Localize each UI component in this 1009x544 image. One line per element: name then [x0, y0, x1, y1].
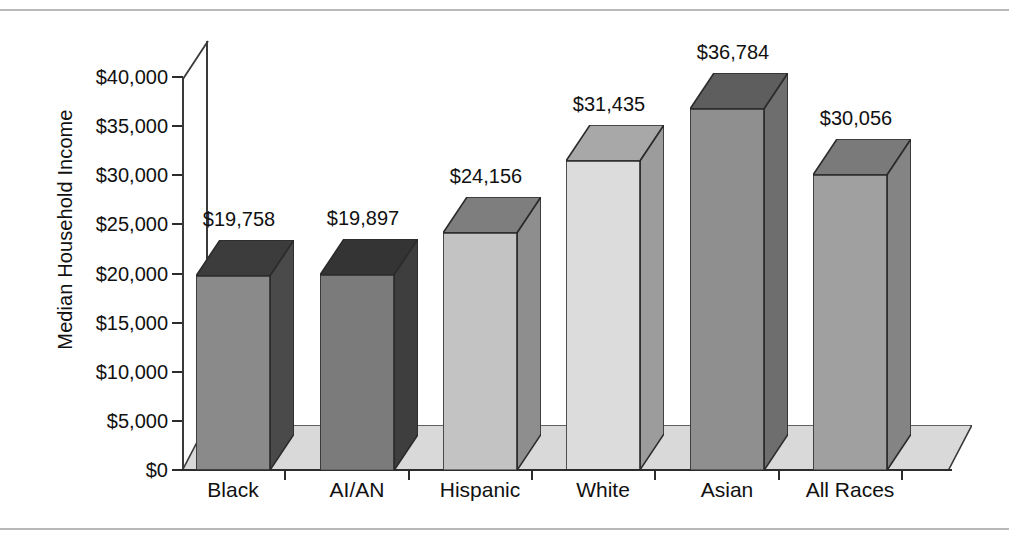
- bar-3d-body: [813, 139, 911, 470]
- bar-3d-body: [690, 73, 788, 470]
- y-axis-tick-label: $15,000: [48, 311, 168, 334]
- x-axis-category-label: Hispanic: [440, 478, 521, 502]
- x-axis-tick-mark: [408, 469, 410, 480]
- x-axis-tick-mark: [284, 469, 286, 480]
- bar-3d-body: [320, 239, 418, 470]
- x-axis-tick-mark: [531, 469, 533, 480]
- bar-value-label: $24,156: [450, 165, 522, 188]
- y-axis-line-front: [182, 77, 184, 470]
- y-axis-tick-label: $30,000: [48, 164, 168, 187]
- bar-value-label: $30,056: [820, 107, 892, 130]
- y-axis-tick-label: $20,000: [48, 262, 168, 285]
- bar-face-front: [690, 109, 764, 470]
- bar-3d-body: [196, 240, 294, 470]
- bar-face-side: [270, 240, 294, 470]
- y-axis-tick-labels: $0$5,000$10,000$15,000$20,000$25,000$30,…: [48, 0, 168, 544]
- bar-value-label: $19,897: [327, 207, 399, 230]
- y-axis-depth-edge: [182, 40, 210, 80]
- x-axis-tick-mark: [901, 469, 903, 480]
- x-axis-tick-mark: [778, 469, 780, 480]
- x-axis-category-label: White: [576, 478, 630, 502]
- x-axis-category-label: AI/AN: [330, 478, 385, 502]
- bar-face-front: [320, 275, 394, 470]
- bar-face-side: [764, 73, 788, 470]
- bar-3d-body: [566, 125, 664, 470]
- x-axis-category-label: All Races: [806, 478, 895, 502]
- bar-value-label: $36,784: [697, 41, 769, 64]
- x-axis-category-label: Asian: [701, 478, 754, 502]
- bar-3d-body: [443, 197, 541, 470]
- bar-column: [443, 197, 541, 470]
- x-axis-category-label: Black: [207, 478, 258, 502]
- y-axis-tick-label: $10,000: [48, 360, 168, 383]
- y-axis-tick-label: $0: [48, 459, 168, 482]
- y-axis-tick-label: $35,000: [48, 115, 168, 138]
- bar-face-side: [394, 239, 418, 470]
- y-axis-tick-label: $5,000: [48, 409, 168, 432]
- bar-column: [813, 139, 911, 470]
- bar-face-front: [813, 175, 887, 470]
- bar-value-label: $19,758: [203, 208, 275, 231]
- bar-column: [320, 239, 418, 470]
- bar-face-side: [517, 197, 541, 470]
- bar-column: [690, 73, 788, 470]
- bar-face-front: [196, 276, 270, 470]
- y-axis-tick-label: $40,000: [48, 66, 168, 89]
- bar-face-side: [887, 139, 911, 470]
- bar-face-front: [443, 233, 517, 470]
- chart-screenshot: Median Household Income $0$5,000$10,000$…: [0, 0, 1009, 544]
- bar-column: [196, 240, 294, 470]
- y-axis-tick-label: $25,000: [48, 213, 168, 236]
- bar-face-side: [640, 125, 664, 470]
- bar-value-label: $31,435: [573, 93, 645, 116]
- x-axis-tick-mark: [654, 469, 656, 480]
- bar-face-front: [566, 161, 640, 470]
- bar-column: [566, 125, 664, 470]
